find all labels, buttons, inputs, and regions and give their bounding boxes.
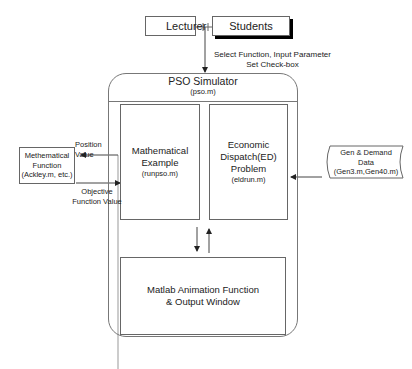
objective-value-label: Objective Function Value	[72, 187, 122, 206]
students-box[interactable]: Students	[212, 16, 290, 36]
students-label: Students	[229, 20, 272, 33]
economic-dispatch-box[interactable]: Economic Dispatch(ED) Problem (eldrun.m)	[209, 104, 288, 220]
lecturer-label: Lecturer	[166, 20, 206, 33]
lecturer-box[interactable]: Lecturer	[145, 16, 196, 36]
pso-simulator-title: PSO Simulator (pso.m)	[108, 75, 298, 97]
simulator-header-divider	[109, 101, 297, 102]
matlab-animation-box[interactable]: Matlab Animation Function & Output Windo…	[120, 257, 286, 335]
math-function-box[interactable]: Methematical Function (Ackley.m, etc.)	[19, 147, 75, 184]
position-value-label: Position Value	[75, 140, 102, 159]
gen-demand-data-label: Gen & Demand Data (Gen3.m,Gen40.m)	[326, 148, 406, 177]
input-label: Select Function, Input Parameter Set Che…	[205, 50, 340, 70]
math-example-box[interactable]: Mathematical Example (runpso.m)	[120, 104, 200, 220]
